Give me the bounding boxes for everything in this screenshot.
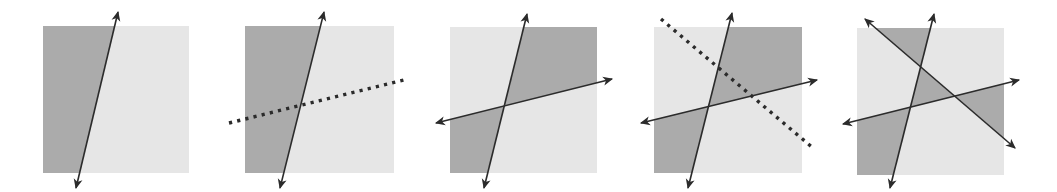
panel-4 [641,13,817,188]
panel-5 [843,14,1019,188]
panel-3 [436,14,612,188]
line-arrangement-figure [0,0,1057,192]
panel-2 [229,12,408,188]
panels-layer [43,12,1019,188]
panel-1 [43,12,189,188]
